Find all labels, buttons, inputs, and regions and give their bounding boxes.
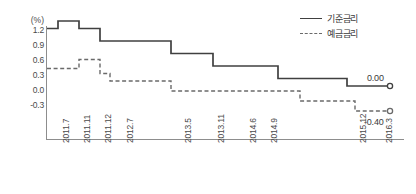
series-line-deposit-rate: [47, 60, 390, 112]
x-tick-label-8: 2014.9: [270, 118, 279, 143]
legend-label-base-rate: 기준금리: [327, 12, 358, 25]
x-tick-label-1: 2011.7: [62, 119, 71, 143]
x-tick-label-9: 2015.12: [359, 114, 368, 143]
x-tick-label-3: 2011.12: [104, 114, 113, 143]
x-tick-label-5: 2013.5: [184, 118, 193, 143]
x-tick-label-4: 2012.7: [126, 118, 135, 143]
legend-item-base-rate: 기준금리: [300, 12, 412, 25]
endpoint-label-base-rate: 0.00: [367, 73, 384, 83]
legend-dashed-line-icon: [300, 29, 322, 39]
series-endpoint-marker-base-rate: [387, 83, 392, 88]
legend-label-deposit-rate: 예금금리: [327, 27, 358, 40]
rate-comparison-chart: (%) 1.2 0.9 0.6 0.3 0.0 -0.3 0.00 -0.40 …: [0, 0, 416, 194]
chart-legend: 기준금리 예금금리: [300, 12, 412, 42]
x-tick-label-6: 2013.11: [217, 114, 226, 143]
x-tick-label-2: 2011.11: [83, 115, 92, 143]
x-tick-label-7: 2014.6: [249, 118, 258, 143]
legend-item-deposit-rate: 예금금리: [300, 27, 412, 40]
x-tick-label-10: 2016.3: [385, 118, 394, 143]
legend-solid-line-icon: [300, 14, 322, 24]
series-endpoint-marker-deposit-rate: [387, 108, 392, 113]
